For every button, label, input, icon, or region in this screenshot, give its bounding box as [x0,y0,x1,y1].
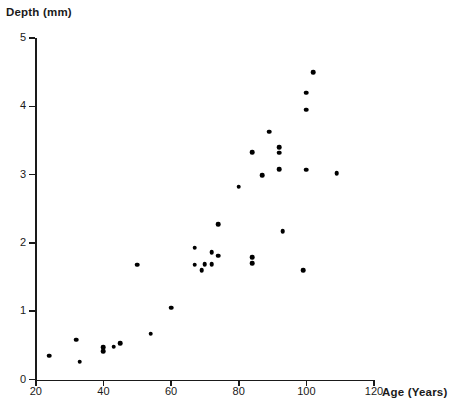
data-point [199,268,204,273]
data-point [267,129,272,134]
data-point [277,150,282,155]
data-point [250,150,255,155]
data-point [311,70,316,75]
data-points-layer [0,0,459,414]
data-point [118,341,123,346]
data-point [111,344,116,349]
data-point [148,331,153,336]
data-point [77,359,82,364]
data-point [304,90,309,95]
data-point [277,145,282,150]
scatter-plot-figure: Depth (mm) Age (Years) 012345 2040608010… [0,0,459,414]
data-point [304,107,309,112]
data-point [304,168,309,173]
data-point [135,262,140,267]
data-point [203,262,208,267]
data-point [74,338,79,343]
data-point [250,261,255,266]
data-point [192,245,197,250]
data-point [277,167,282,172]
data-point [169,305,174,310]
data-point [335,171,340,176]
data-point [216,254,221,259]
data-point [250,255,255,260]
data-point [280,229,285,234]
data-point [209,262,214,267]
data-point [192,262,197,267]
data-point [260,173,265,178]
data-point [101,349,106,354]
data-point [236,185,241,190]
data-point [209,250,214,255]
data-point [47,353,52,358]
data-point [216,222,221,227]
data-point [301,268,306,273]
